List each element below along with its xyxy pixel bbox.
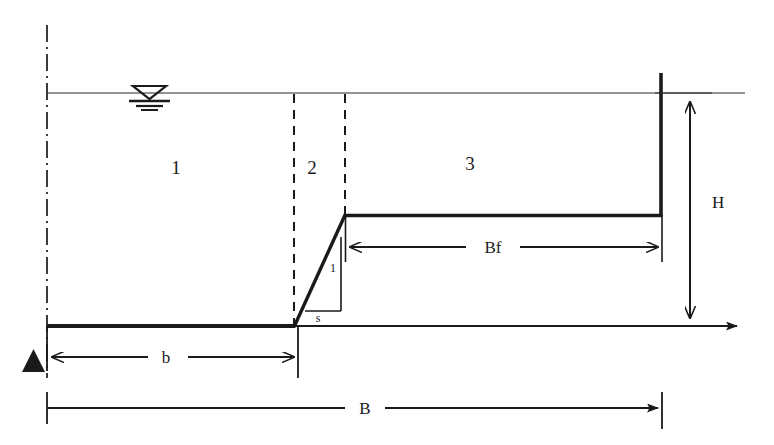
region-label-2: 2 bbox=[307, 157, 317, 178]
dim-B-label: B bbox=[359, 399, 370, 418]
channel-cross-section-diagram: 1 2 3 1 s H Bf bbox=[0, 0, 774, 445]
water-level-triangle-icon bbox=[129, 86, 170, 110]
region-divider-group bbox=[294, 94, 345, 326]
dimension-Bf-group: Bf bbox=[346, 215, 663, 262]
dim-b-label: b bbox=[162, 348, 171, 367]
region-label-1: 1 bbox=[171, 157, 181, 178]
water-surface-group bbox=[47, 86, 745, 110]
region-label-3: 3 bbox=[465, 153, 475, 174]
diagram-canvas: 1 2 3 1 s H Bf bbox=[0, 0, 774, 445]
slope-horizontal-label: s bbox=[316, 311, 321, 325]
region-labels-group: 1 2 3 bbox=[171, 153, 475, 178]
slope-vertical-label: 1 bbox=[330, 261, 336, 275]
channel-bed-profile bbox=[47, 73, 662, 327]
dimension-b-group: b bbox=[22, 326, 298, 378]
dim-Bf-label: Bf bbox=[485, 238, 502, 257]
filled-triangle-support-icon bbox=[22, 349, 45, 372]
slope-indicator-group: 1 s bbox=[305, 237, 341, 325]
dim-H-label: H bbox=[712, 193, 724, 212]
dimension-B-group: B bbox=[47, 392, 662, 429]
dimension-H-group: H bbox=[655, 93, 724, 318]
